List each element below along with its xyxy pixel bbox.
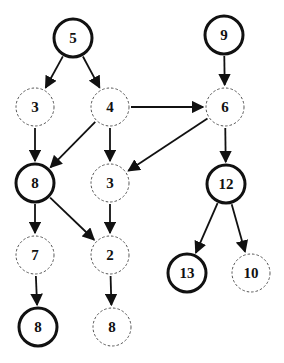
edge-arrow bbox=[50, 122, 95, 167]
edge-arrow bbox=[111, 276, 112, 305]
graph-node-n8b: 8 bbox=[19, 308, 57, 346]
edge-arrow bbox=[128, 119, 207, 171]
node-label: 12 bbox=[219, 176, 234, 192]
nodes-layer: 59346831272131088 bbox=[16, 16, 270, 346]
edge-arrow bbox=[83, 57, 100, 88]
graph-node-n2: 2 bbox=[91, 236, 129, 274]
graph-node-n8a: 8 bbox=[16, 164, 54, 202]
node-label: 3 bbox=[31, 99, 39, 115]
node-label: 3 bbox=[106, 175, 114, 191]
edge-arrow bbox=[196, 203, 218, 253]
edge-arrow bbox=[50, 198, 94, 240]
edge-arrow bbox=[232, 204, 245, 252]
edge-arrow bbox=[36, 276, 37, 305]
graph-node-n3b: 3 bbox=[91, 164, 129, 202]
graph-node-n10: 10 bbox=[232, 254, 270, 292]
node-label: 5 bbox=[69, 30, 77, 46]
edge-arrow bbox=[46, 56, 63, 87]
graph-node-n9: 9 bbox=[205, 16, 243, 54]
node-label: 2 bbox=[106, 247, 114, 263]
node-label: 7 bbox=[31, 247, 39, 263]
node-label: 13 bbox=[180, 265, 195, 281]
node-label: 9 bbox=[220, 27, 228, 43]
graph-node-n6: 6 bbox=[206, 88, 244, 126]
graph-node-n3a: 3 bbox=[16, 88, 54, 126]
graph-node-n12: 12 bbox=[207, 165, 245, 203]
graph-node-n4: 4 bbox=[91, 88, 129, 126]
graph-node-n13: 13 bbox=[168, 254, 206, 292]
graph-node-n8c: 8 bbox=[93, 308, 131, 346]
graph-node-n7: 7 bbox=[16, 236, 54, 274]
graph-diagram: 59346831272131088 bbox=[0, 0, 284, 363]
node-label: 6 bbox=[221, 99, 229, 115]
graph-node-n5: 5 bbox=[54, 19, 92, 57]
node-label: 4 bbox=[106, 99, 114, 115]
node-label: 8 bbox=[108, 319, 116, 335]
node-label: 8 bbox=[34, 319, 42, 335]
node-label: 8 bbox=[31, 175, 39, 191]
node-label: 10 bbox=[244, 265, 259, 281]
